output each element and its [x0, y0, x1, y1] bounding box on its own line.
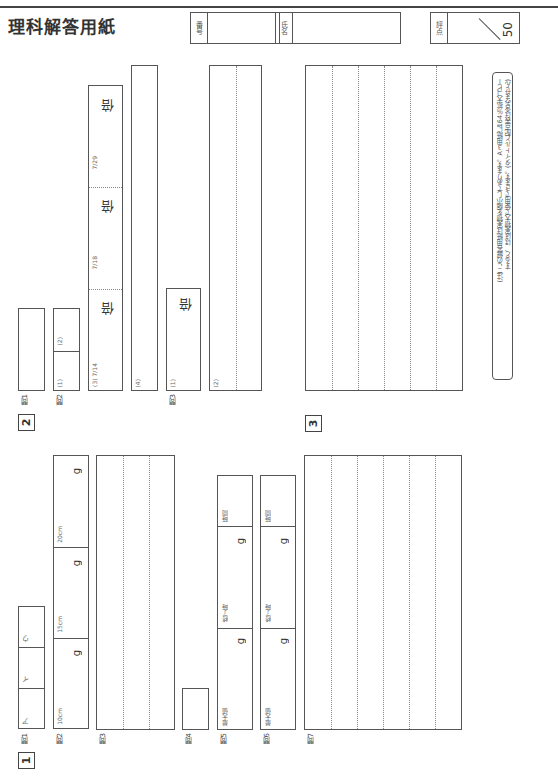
divider: [384, 66, 385, 390]
section-1-number: 1: [18, 752, 35, 769]
unit-g: g: [71, 650, 82, 656]
s2-q2-sub3-answer[interactable]: (3) 7/14 7/18 7/29 倍 倍 倍: [88, 85, 123, 391]
cell-end: 終了時: [263, 604, 272, 622]
divider: [358, 66, 359, 390]
divider: [332, 66, 333, 390]
divider: [89, 187, 122, 188]
s1-q3-answer[interactable]: [96, 455, 175, 730]
divider: [19, 688, 44, 689]
divider: [218, 526, 252, 527]
score-slash: [479, 18, 501, 40]
s2-q2-sub2-label: (2): [56, 337, 63, 346]
note-box: (注) この解答用紙は実物を縮小してあります。A３用紙に164％拡大コピー する…: [492, 72, 513, 380]
unit-g: g: [278, 638, 289, 644]
s1-q4-answer[interactable]: [182, 688, 209, 730]
s2-q1-label: 問1: [20, 394, 30, 405]
s1-q6-label: 問6: [262, 733, 272, 744]
s1-q1-answer[interactable]: ア イ ウ: [18, 606, 45, 729]
divider: [54, 351, 79, 352]
s2-q2-date-718: 7/18: [91, 256, 98, 269]
s2-q3-sub1-answer[interactable]: (1) 倍: [166, 288, 201, 391]
s3-answer[interactable]: [305, 65, 463, 391]
s1-q2-answer[interactable]: 10cm 15cm 20cm g g g: [53, 455, 89, 729]
divider: [383, 456, 384, 729]
divider: [54, 547, 88, 548]
s2-q3-sub2-answer[interactable]: (2): [209, 65, 262, 391]
cell-15cm: 15cm: [56, 616, 63, 633]
s1-q3-label: 問3: [98, 733, 108, 744]
s1-q1-label: 問1: [20, 733, 30, 744]
cell-u: ウ: [21, 635, 31, 642]
unit-g: g: [235, 538, 246, 544]
divider: [54, 638, 88, 639]
s2-q2-date-729: 7/29: [91, 156, 98, 169]
divider: [236, 66, 237, 390]
cell-max: 最大値: [220, 708, 229, 726]
s1-q2-label: 問2: [55, 733, 65, 744]
student-number-label: 番号: [191, 13, 208, 43]
divider: [123, 456, 124, 729]
unit-bai: 倍: [98, 99, 117, 112]
divider: [436, 66, 437, 390]
divider: [149, 456, 150, 729]
section-2-number: 2: [18, 414, 35, 431]
score-max: 50: [501, 22, 515, 37]
cell-end: 終了時: [220, 604, 229, 622]
unit-bai: 倍: [98, 302, 117, 315]
score-field: 評点 50: [430, 12, 520, 44]
divider: [19, 647, 44, 648]
s2-q2-sub4-answer[interactable]: (4): [131, 65, 158, 391]
s2-q2-sub1-label: (1): [56, 379, 63, 388]
unit-bai: 倍: [98, 200, 117, 213]
divider: [261, 526, 295, 527]
s2-q2-sub3-label: (3) 7/14: [91, 363, 98, 387]
divider: [89, 289, 122, 290]
s2-q1-answer[interactable]: [18, 308, 45, 391]
s2-q2-answer[interactable]: (1) (2): [53, 308, 80, 391]
divider: [261, 628, 295, 629]
s2-q3-label: 問3: [168, 394, 178, 405]
s1-q5-label: 問5: [219, 733, 229, 744]
unit-g: g: [235, 638, 246, 644]
cell-i: イ: [21, 676, 31, 683]
s2-q2-label: 問2: [55, 394, 65, 405]
section-3-number: 3: [305, 415, 322, 432]
cell-time: 時間: [263, 510, 272, 522]
cell-10cm: 10cm: [56, 708, 63, 725]
s2-q3-sub1-label: (1): [169, 379, 176, 388]
unit-g: g: [71, 560, 82, 566]
divider: [435, 456, 436, 729]
divider: [331, 456, 332, 729]
cell-time: 時間: [220, 510, 229, 522]
cell-a: ア: [21, 718, 31, 725]
s2-q2-sub4-label: (4): [134, 379, 141, 388]
student-number-field[interactable]: 番号: [190, 12, 280, 44]
note-line-2: すると、ほぼ実物大で使用できます。(タイトルと配点表は含みません): [503, 79, 512, 270]
student-name-field[interactable]: 氏名: [275, 12, 401, 44]
s1-q5-answer[interactable]: 最大値 終了時 時間 g g: [217, 475, 253, 730]
cell-max: 最大値: [263, 708, 272, 726]
divider: [409, 456, 410, 729]
unit-g: g: [278, 538, 289, 544]
s1-q7-answer[interactable]: [304, 455, 462, 730]
divider: [357, 456, 358, 729]
divider: [410, 66, 411, 390]
unit-g: g: [71, 468, 82, 474]
cell-20cm: 20cm: [56, 526, 63, 543]
page-title: 理科解答用紙: [8, 13, 116, 38]
s1-q4-label: 問4: [184, 733, 194, 744]
student-name-label: 氏名: [276, 13, 293, 43]
divider: [218, 628, 252, 629]
unit-bai: 倍: [176, 298, 195, 311]
s2-q3-sub2-label: (2): [212, 379, 219, 388]
s1-q7-label: 問7: [306, 733, 316, 744]
score-label: 評点: [431, 13, 448, 43]
top-rule: [0, 0, 558, 8]
s1-q6-answer[interactable]: 最大値 終了時 時間 g g: [260, 475, 296, 730]
